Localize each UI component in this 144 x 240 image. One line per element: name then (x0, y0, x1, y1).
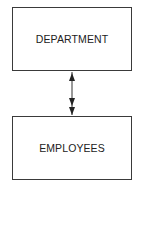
entity-employees: EMPLOYEES (12, 116, 132, 180)
arrowhead-up-icon (69, 73, 75, 81)
entity-employees-label: EMPLOYEES (39, 142, 105, 154)
arrowhead-down-2-icon (69, 107, 75, 115)
arrowhead-down-1-icon (69, 98, 75, 106)
